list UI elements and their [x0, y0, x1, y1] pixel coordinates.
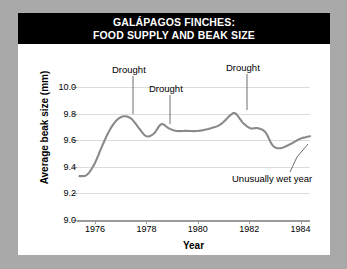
chart-title-bar: GALÁPAGOS FINCHES: FOOD SUPPLY AND BEAK …	[18, 13, 330, 44]
leader-line-wet-year	[290, 144, 308, 172]
annotation-drought-1: Drought	[112, 64, 146, 75]
chart-title-line-1: GALÁPAGOS FINCHES:	[113, 16, 235, 29]
chart-figure: GALÁPAGOS FINCHES: FOOD SUPPLY AND BEAK …	[18, 13, 330, 255]
chart-title-line-2: FOOD SUPPLY AND BEAK SIZE	[93, 29, 255, 42]
annotation-wet-year: Unusually wet year	[232, 173, 312, 184]
data-curve-svg	[18, 44, 330, 255]
annotation-drought-3: Drought	[226, 62, 260, 73]
annotation-drought-2: Drought	[149, 83, 183, 94]
beak-size-line	[79, 113, 310, 176]
plot-area: 10.0 9.8 9.6 9.4 9.2 9.0 1976 1978 1980 …	[18, 44, 330, 255]
